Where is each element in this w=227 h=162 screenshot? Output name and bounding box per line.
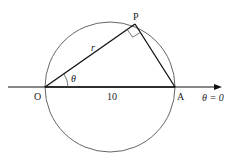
label-theta: θ [71,73,76,84]
label-r: r [91,42,95,53]
right-angle-marker [127,30,140,38]
label-initial-line: θ = 0 [202,92,224,103]
polar-circle-diagram: P r θ O 10 A θ = 0 [0,0,227,162]
label-O: O [34,91,41,102]
theta-angle-arc [64,74,68,87]
segment-PA [135,24,175,87]
segment-OP [45,24,135,87]
label-10: 10 [107,91,117,102]
label-P: P [133,11,139,22]
arrow-head-icon [214,84,222,90]
label-A: A [177,91,185,102]
